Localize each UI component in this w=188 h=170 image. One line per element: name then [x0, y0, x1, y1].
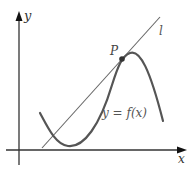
x-axis — [6, 147, 187, 154]
function-curve — [40, 53, 163, 147]
point-p-marker — [119, 56, 125, 62]
curve-equation-label: y = f(x) — [102, 107, 147, 119]
tangent-line-label: l — [159, 25, 163, 37]
point-p-label: P — [110, 45, 118, 57]
tangent-line — [42, 17, 160, 148]
x-axis-label: x — [178, 153, 185, 165]
y-axis-arrow-icon — [16, 11, 23, 21]
tangent-diagram: y x P l y = f(x) — [0, 0, 188, 170]
y-axis-label: y — [24, 9, 31, 22]
y-axis — [16, 11, 23, 165]
